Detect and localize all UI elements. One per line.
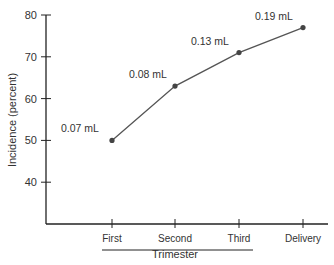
data-point: [300, 25, 305, 30]
x-tick-label: Delivery: [285, 233, 321, 244]
x-axis-label: Trimester: [152, 248, 198, 260]
point-label: 0.19 mL: [255, 10, 293, 22]
y-tick-label: 50: [25, 134, 37, 146]
y-tick-label: 60: [25, 93, 37, 105]
point-label: 0.13 mL: [191, 35, 229, 47]
y-tick-label: 70: [25, 51, 37, 63]
x-tick-label: Second: [158, 233, 192, 244]
point-label: 0.08 mL: [129, 68, 167, 80]
x-tick-label: First: [102, 233, 122, 244]
y-tick-label: 40: [25, 176, 37, 188]
data-point: [236, 50, 241, 55]
incidence-line-chart: 4050607080FirstSecondThirdDelivery 0.07 …: [0, 0, 334, 265]
point-label: 0.07 mL: [61, 122, 99, 134]
data-point: [172, 83, 177, 88]
data-series: 0.07 mL0.08 mL0.13 mL0.19 mL: [61, 10, 306, 143]
y-axis-label: Incidence (percent): [6, 73, 18, 167]
data-point: [109, 138, 114, 143]
y-tick-label: 80: [25, 9, 37, 21]
x-tick-label: Third: [228, 233, 251, 244]
